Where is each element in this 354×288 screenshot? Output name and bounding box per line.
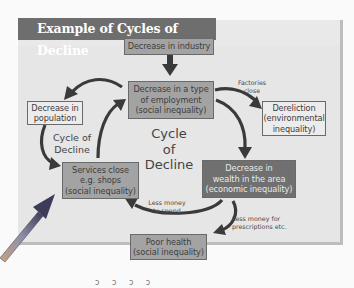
external-pointer-arrow	[0, 194, 55, 262]
cycle-of-decline-center-label: Cycle of Decline	[136, 126, 202, 173]
node-services-close: Services close e.g. shops (social inequa…	[62, 162, 139, 199]
node-label: population	[28, 113, 82, 124]
node-label: (social inequality)	[63, 186, 138, 197]
node-label: Decrease in industry	[125, 41, 213, 52]
node-label: Decrease in	[28, 103, 82, 114]
arrow-services-to-employment	[98, 99, 126, 158]
node-label: e.g. shops	[63, 175, 138, 186]
node-label: Decrease in a type	[129, 84, 213, 95]
node-label: (social inequality)	[129, 105, 213, 116]
footer-scribble: ↄ ɔ ɔ ↄ	[95, 278, 155, 287]
edge-label-less-money-for-prescriptions: Less money for prescriptions etc.	[232, 215, 294, 230]
node-poor-health: Poor health (social inequality)	[130, 234, 207, 260]
node-label: (economic inequality)	[203, 184, 295, 195]
node-label: (social inequality)	[131, 247, 206, 258]
arrow-employment-to-population	[64, 80, 122, 100]
node-decrease-in-industry: Decrease in industry	[124, 38, 214, 55]
node-decrease-in-wealth: Decrease in wealth in the area (economic…	[202, 160, 296, 198]
edge-label-factories-close: Factories close	[234, 79, 270, 94]
node-decrease-in-employment: Decrease in a type of employment (social…	[128, 81, 214, 119]
edge-label-less-money-to-spend: Less money to spend	[145, 199, 189, 214]
node-label: (environmental	[263, 113, 325, 124]
node-label: wealth in the area	[203, 174, 295, 185]
node-dereliction: Dereliction (environmental inequality)	[262, 101, 326, 136]
arrow-industry-to-employment	[162, 55, 178, 76]
node-label: Decrease in	[203, 163, 295, 174]
node-label: Poor health	[131, 237, 206, 248]
node-label: Dereliction	[263, 103, 325, 114]
node-label: Services close	[63, 165, 138, 176]
cycle-of-decline-side-label: Cycle of Decline	[48, 132, 96, 155]
node-label: of employment	[129, 95, 213, 106]
node-label: inequality)	[263, 124, 325, 135]
arrow-employment-to-wealth	[216, 100, 252, 159]
node-decrease-in-population: Decrease in population	[27, 101, 83, 125]
